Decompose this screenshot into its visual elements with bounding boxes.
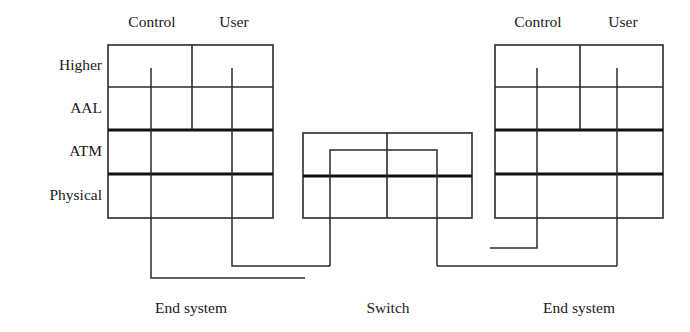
switch-atm-relay-path	[330, 150, 437, 266]
layer-label-higher: Higher	[0, 57, 102, 73]
layer-label-atm: ATM	[0, 143, 102, 159]
switch-stack	[303, 133, 617, 266]
diagram-canvas: ATM protocol architecture	[0, 0, 690, 332]
right-plane-header-control: Control	[496, 14, 580, 30]
node-caption-right-end-system: End system	[494, 300, 664, 316]
right-plane-header-user: User	[582, 14, 664, 30]
layer-label-aal: AAL	[0, 100, 102, 116]
layer-label-physical: Physical	[0, 187, 102, 203]
left-plane-header-user: User	[194, 14, 274, 30]
node-caption-left-end-system: End system	[106, 300, 276, 316]
left-end-system-stack	[108, 45, 330, 278]
left-user-plane-connector	[232, 68, 330, 266]
protocol-architecture-diagram	[0, 0, 690, 332]
right-end-system-stack	[490, 45, 663, 266]
right-control-plane-connector	[490, 68, 537, 248]
node-caption-switch: Switch	[303, 300, 473, 316]
left-plane-header-control: Control	[110, 14, 194, 30]
